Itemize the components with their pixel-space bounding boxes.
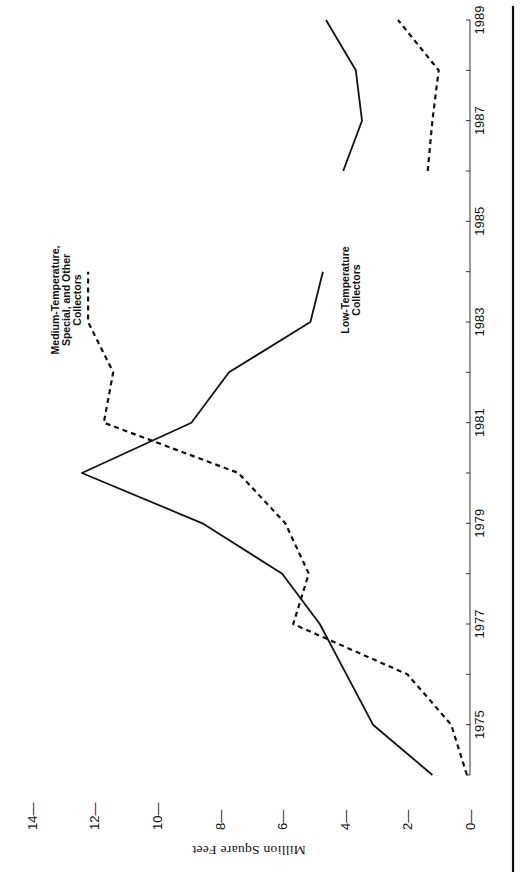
year-tick-label: 1983 bbox=[472, 308, 487, 337]
value-axis: 0—2—4—6—8—10—12—14— bbox=[25, 803, 478, 830]
series-layer bbox=[82, 20, 467, 775]
value-tick-label: 12— bbox=[87, 803, 102, 830]
year-tick-label: 1977 bbox=[472, 610, 487, 639]
year-tick-label: 1981 bbox=[472, 408, 487, 437]
year-tick-label: 1989 bbox=[472, 6, 487, 35]
value-tick-label: 8— bbox=[213, 810, 228, 830]
series-line-low-temperature bbox=[326, 20, 362, 171]
series-label-low-temperature: Low-TemperatureCollectors bbox=[339, 246, 362, 333]
year-tick-label: 1975 bbox=[472, 710, 487, 739]
value-tick-label: 10— bbox=[150, 803, 165, 830]
year-tick-label: 1985 bbox=[472, 207, 487, 236]
value-axis-title: Million Square Feet bbox=[192, 843, 306, 858]
series-label-line: Collectors bbox=[71, 274, 83, 326]
series-line-low-temperature bbox=[82, 272, 433, 775]
series-label-medium-temperature: Medium-Temperature,Special, and OtherCol… bbox=[49, 245, 83, 354]
value-tick-label: 2— bbox=[400, 810, 415, 830]
series-line-medium-temperature bbox=[88, 272, 467, 775]
year-tick-label: 1979 bbox=[472, 509, 487, 538]
series-line-medium-temperature bbox=[398, 20, 439, 171]
value-tick-label: 6— bbox=[275, 810, 290, 830]
chart-canvas: 19751977197919811983198519871989 0—2—4—6… bbox=[0, 0, 523, 892]
solar-collector-chart: 19751977197919811983198519871989 0—2—4—6… bbox=[0, 0, 523, 892]
year-tick-label: 1987 bbox=[472, 106, 487, 135]
value-tick-label: 4— bbox=[338, 810, 353, 830]
value-tick-label: 0— bbox=[463, 810, 478, 830]
series-label-line: Collectors bbox=[350, 264, 362, 316]
year-axis: 19751977197919811983198519871989 bbox=[466, 6, 487, 775]
value-tick-label: 14— bbox=[25, 803, 40, 830]
